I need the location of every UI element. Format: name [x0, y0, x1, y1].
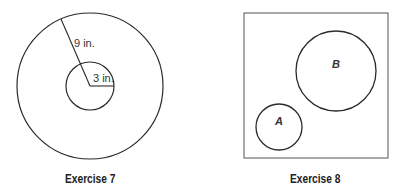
- exercise-7-figure: 9 in. 3 in.: [17, 13, 163, 159]
- circle-b: [296, 31, 376, 111]
- outer-radius-label: 9 in.: [74, 37, 95, 49]
- exercise-8-caption: Exercise 8: [290, 172, 340, 186]
- universal-set-box: [244, 13, 388, 158]
- exercise-7-caption: Exercise 7: [65, 172, 115, 186]
- outer-radius-line: [61, 19, 90, 86]
- diagram-canvas: 9 in. 3 in. B A: [0, 0, 415, 192]
- exercise-8-figure: B A: [244, 13, 388, 158]
- circle-a: [256, 104, 302, 150]
- inner-radius-label: 3 in.: [93, 72, 114, 84]
- circle-a-label: A: [274, 115, 283, 127]
- circle-b-label: B: [332, 58, 340, 70]
